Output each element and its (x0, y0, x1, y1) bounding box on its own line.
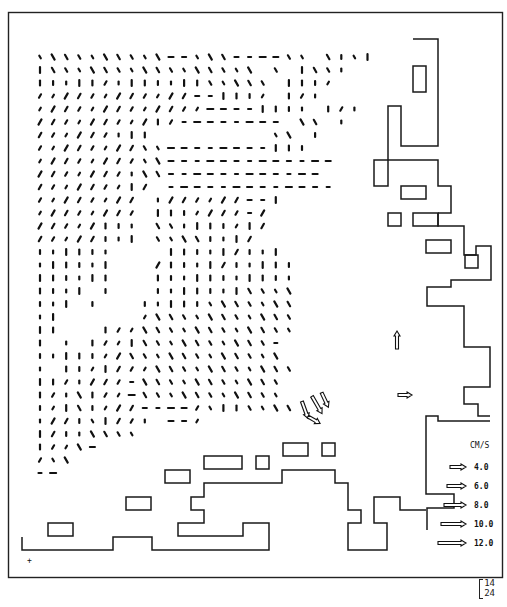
current-vector (314, 120, 317, 124)
current-vector (183, 329, 185, 332)
current-vector (92, 368, 94, 371)
current-vector (143, 119, 146, 124)
current-vector (157, 224, 160, 228)
current-vector (183, 354, 186, 358)
current-vector (78, 392, 81, 397)
current-vector (78, 94, 81, 98)
current-vector (183, 69, 185, 72)
current-vector (39, 108, 41, 111)
current-vector (157, 95, 159, 98)
current-vector (235, 80, 238, 85)
legend-speed-label: 6.0 (474, 482, 489, 491)
current-vector (235, 302, 238, 306)
current-vector (157, 380, 160, 384)
current-vector (131, 419, 133, 422)
current-vector (39, 171, 42, 176)
open-arrow-icon (394, 331, 400, 349)
current-vector (144, 368, 146, 371)
legend-arrow-icon (438, 540, 466, 546)
current-vector (52, 418, 55, 423)
corner-label: 14 24 (484, 578, 495, 598)
current-vector (209, 328, 212, 332)
current-vector (52, 185, 54, 188)
current-vector (65, 172, 67, 175)
current-vector (261, 366, 264, 371)
current-vector (156, 106, 159, 111)
current-vector (65, 224, 67, 227)
current-vector (288, 55, 290, 58)
current-vector (144, 316, 146, 319)
current-vector (248, 81, 251, 85)
current-vector (91, 379, 94, 384)
current-vector (131, 121, 133, 124)
current-vector (104, 380, 107, 384)
current-vector (236, 225, 238, 228)
current-vector (236, 329, 238, 332)
current-vector (196, 393, 199, 397)
current-vector (170, 93, 173, 98)
current-vector (248, 67, 251, 72)
current-vector (249, 406, 251, 409)
current-vector (275, 394, 277, 397)
current-vector (262, 303, 264, 306)
current-vector (262, 341, 264, 344)
current-vector (288, 406, 291, 410)
current-vector (39, 119, 42, 124)
legend-arrow-icon (441, 521, 466, 527)
current-vector (156, 262, 159, 267)
current-vector (104, 432, 107, 436)
current-vector (157, 237, 159, 240)
current-vector (91, 119, 94, 124)
current-vector (131, 69, 133, 72)
current-vector (39, 146, 41, 149)
current-vector (66, 446, 68, 449)
current-vector (288, 302, 291, 306)
current-vector (261, 210, 264, 215)
current-vector (117, 367, 120, 371)
current-vector (52, 158, 55, 163)
current-vector (117, 405, 120, 410)
current-vector (170, 315, 173, 319)
current-vector (65, 197, 68, 202)
vector-field-plot: + CM/S 4.06.08.010.012.0 (0, 0, 507, 607)
current-vector (222, 68, 224, 71)
current-vector (235, 198, 238, 202)
current-vector (105, 199, 107, 202)
current-vector (91, 67, 94, 72)
current-vector (143, 67, 146, 72)
current-vector (105, 355, 107, 358)
current-vector (91, 171, 94, 176)
current-vector (91, 133, 94, 137)
current-vector (222, 263, 225, 267)
current-vector (65, 159, 68, 163)
current-vector (105, 393, 107, 396)
current-vector (183, 315, 185, 318)
current-vector (170, 68, 172, 71)
current-vector (39, 56, 41, 59)
current-vector (78, 107, 80, 110)
current-vector (65, 93, 68, 98)
current-vector (157, 147, 159, 150)
current-vector (301, 56, 303, 59)
current-vector (236, 315, 238, 318)
current-vector (170, 197, 173, 202)
current-vector (52, 407, 54, 410)
origin-marker: + (27, 556, 32, 565)
current-vector (248, 393, 251, 397)
current-vector (274, 405, 277, 410)
current-vector (91, 94, 93, 97)
current-vector (105, 341, 107, 344)
current-vector (118, 380, 120, 383)
current-vector (209, 366, 212, 371)
current-vector (170, 328, 172, 331)
current-vector (104, 54, 107, 59)
current-vector (288, 329, 290, 332)
current-vector (170, 342, 172, 345)
current-vector (287, 132, 290, 137)
legend-title: CM/S (470, 441, 489, 450)
current-vector (144, 341, 147, 345)
current-vector (91, 223, 94, 228)
current-vector (170, 394, 172, 397)
open-arrow-icon (306, 414, 321, 426)
current-vector (143, 171, 146, 176)
